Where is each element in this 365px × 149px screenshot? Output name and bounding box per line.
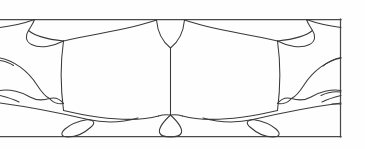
artwork-canvas: Stained Glass Transom Panel [0, 0, 365, 149]
stained-glass-panel-drawing [0, 0, 365, 149]
